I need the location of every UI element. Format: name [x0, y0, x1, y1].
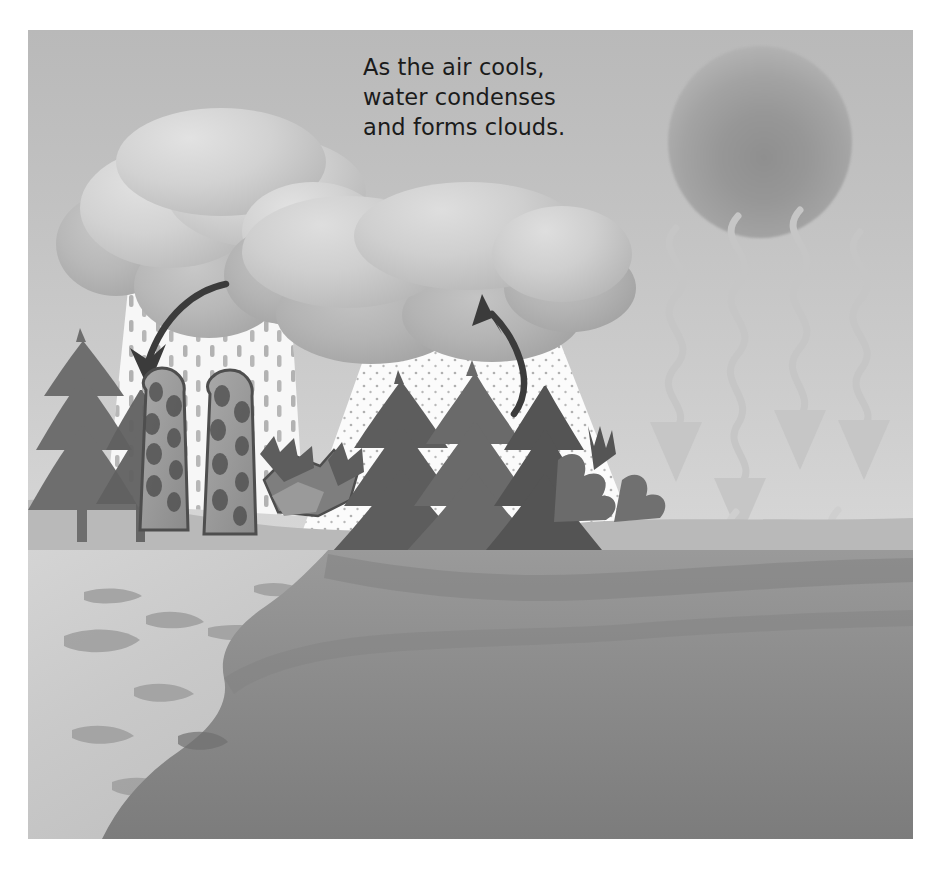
rock-outcrop	[140, 368, 188, 530]
landscape	[28, 30, 913, 839]
rock-outcrop	[204, 370, 256, 534]
water-cycle-illustration: As the air cools, water condenses and fo…	[28, 30, 913, 839]
illustration-page: As the air cools, water condenses and fo…	[0, 0, 940, 879]
shrub	[614, 475, 665, 522]
caption-text: As the air cools, water condenses and fo…	[363, 52, 623, 142]
